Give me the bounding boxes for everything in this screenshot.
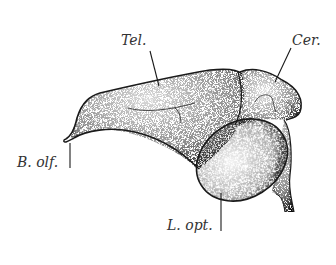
olfactory-bulb: [64, 138, 74, 142]
label-olfactory-bulb: B. olf.: [17, 155, 58, 169]
label-cerebellum: Cer.: [292, 33, 321, 47]
label-optic-lobe: L. opt.: [167, 218, 213, 232]
leader-cer: [275, 48, 291, 82]
label-telencephalon: Tel.: [121, 33, 146, 47]
cerebellum: [238, 70, 301, 126]
brain-figure: Tel. Cer. B. olf. L. opt.: [0, 0, 336, 265]
